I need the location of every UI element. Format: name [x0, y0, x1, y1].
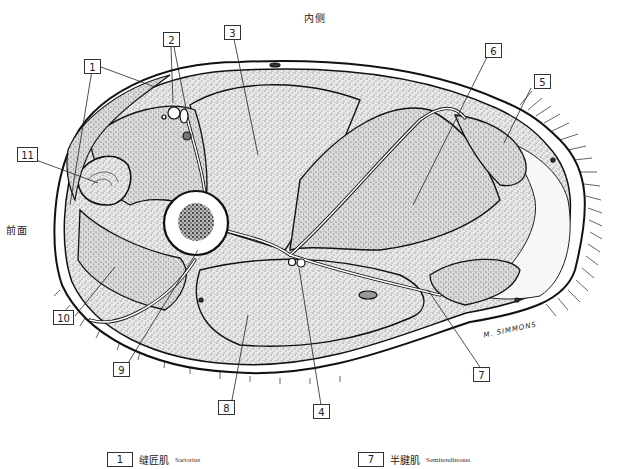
legend-item-sartorius: 1 缝匠肌 Sartorius	[107, 452, 200, 467]
legend-chinese-name: 缝匠肌	[139, 452, 169, 467]
legend-number: 7	[358, 452, 384, 467]
orientation-label-medial: 内侧	[304, 10, 325, 25]
legend-chinese-name: 半腱肌	[390, 452, 420, 467]
legend-number: 1	[107, 452, 133, 467]
legend-latin-name: Sartorius	[175, 456, 200, 464]
callout-3: 3	[224, 25, 241, 40]
callout-4: 4	[313, 404, 330, 419]
callout-5: 5	[534, 74, 551, 89]
callout-2: 2	[163, 32, 180, 47]
callout-6: 6	[485, 43, 502, 58]
legend-item-semitendinosus: 7 半腱肌 Semitendinosus	[358, 452, 470, 467]
legend-latin-name: Semitendinosus	[426, 456, 470, 464]
callout-10: 10	[53, 310, 74, 325]
orientation-label-anterior: 前面	[6, 222, 27, 237]
callout-11: 11	[17, 147, 38, 162]
callout-8: 8	[218, 400, 235, 415]
callout-7: 7	[473, 367, 490, 382]
femur	[164, 191, 228, 255]
callout-9: 9	[113, 362, 130, 377]
callout-1: 1	[84, 59, 101, 74]
